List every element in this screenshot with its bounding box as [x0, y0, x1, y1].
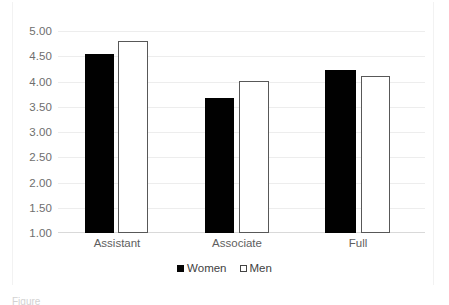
y-tick-label: 1.50: [6, 203, 52, 214]
y-tick-label: 2.50: [6, 152, 52, 163]
bar-women-full: [325, 70, 356, 233]
chart-legend: Women Men: [0, 262, 449, 274]
legend-item-men: Men: [240, 262, 272, 274]
y-tick-label: 2.00: [6, 178, 52, 189]
y-tick-label: 3.00: [6, 127, 52, 138]
x-tick-label-assistant: Assistant: [77, 236, 157, 250]
y-axis: 5.00 4.50 4.00 3.50 3.00 2.50 2.00 1.50 …: [6, 31, 52, 233]
gridline: [58, 31, 425, 32]
plot-area: [58, 31, 425, 233]
y-tick-label: 4.50: [6, 51, 52, 62]
figure-container: 5.00 4.50 4.00 3.50 3.00 2.50 2.00 1.50 …: [0, 0, 449, 305]
x-tick-label-full: Full: [318, 236, 398, 250]
x-tick-label-associate: Associate: [197, 236, 277, 250]
legend-label-men: Men: [250, 262, 272, 274]
outline-square-icon: [240, 265, 247, 272]
y-tick-label: 5.00: [6, 26, 52, 37]
legend-item-women: Women: [177, 262, 226, 274]
filled-square-icon: [177, 265, 184, 272]
bar-men-assistant: [118, 41, 148, 233]
figure-caption: Figure: [12, 296, 442, 305]
bar-women-assistant: [85, 54, 114, 233]
legend-label-women: Women: [187, 262, 226, 274]
y-tick-label: 1.00: [6, 228, 52, 239]
bar-men-associate: [239, 81, 269, 234]
x-axis: Assistant Associate Full: [58, 236, 425, 254]
y-tick-label: 3.50: [6, 102, 52, 113]
bar-women-associate: [205, 98, 234, 233]
y-tick-label: 4.00: [6, 77, 52, 88]
bar-men-full: [361, 76, 390, 233]
